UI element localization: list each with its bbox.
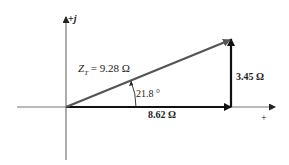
angle-label: 21.8 ° <box>136 89 160 99</box>
imaginary-axis-label: +j <box>68 14 76 24</box>
resultant-label: ZT = 9.28 Ω <box>78 63 130 77</box>
real-component-label: 8.62 Ω <box>148 110 176 120</box>
phasor-diagram-canvas <box>0 0 289 165</box>
real-axis-label: + <box>261 113 267 123</box>
imaginary-component-label: 3.45 Ω <box>236 72 264 82</box>
